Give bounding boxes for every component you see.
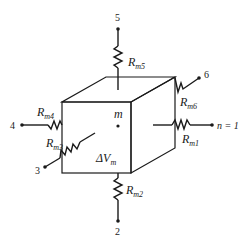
node-1	[210, 123, 214, 127]
node-3	[43, 165, 47, 169]
resistor-label-m5: Rm5	[127, 55, 145, 71]
thermal-network-diagram: m ΔVm Rm5 Rm6 Rm1 Rm4 Rm3 Rm2 5 6 n = 1 …	[0, 0, 244, 238]
resistor-m1	[153, 120, 214, 129]
node-2	[116, 219, 120, 223]
node-6	[197, 76, 201, 80]
resistor-label-m2: Rm2	[125, 183, 143, 199]
resistor-label-m3: Rm3	[45, 136, 63, 152]
node-label-2: 2	[115, 226, 120, 237]
node-4	[20, 123, 24, 127]
volume-label: ΔVm	[95, 151, 116, 167]
node-5	[116, 27, 120, 31]
center-node-label: m	[114, 107, 123, 121]
resistor-m4	[20, 121, 62, 129]
node-label-5: 5	[115, 12, 120, 23]
node-label-1: n = 1	[217, 120, 239, 131]
center-node-dot	[116, 124, 119, 127]
resistor-label-m1: Rm1	[181, 132, 199, 148]
node-label-3: 3	[35, 165, 40, 176]
resistor-m5	[114, 27, 122, 90]
resistor-label-m6: Rm6	[179, 95, 197, 111]
resistor-m2	[114, 173, 122, 223]
node-label-6: 6	[204, 69, 209, 80]
resistor-m6	[175, 76, 201, 92]
resistor-label-m4: Rm4	[36, 105, 54, 121]
node-label-4: 4	[10, 120, 15, 131]
